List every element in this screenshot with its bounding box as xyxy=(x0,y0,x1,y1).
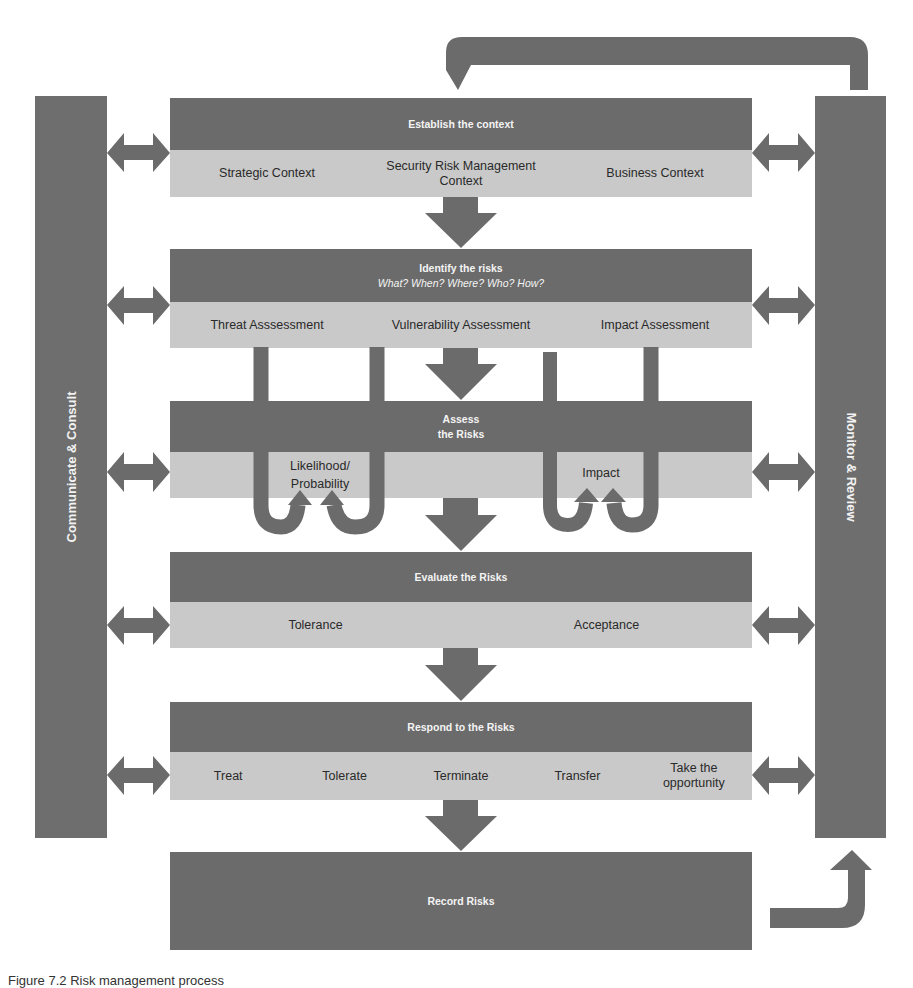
item-vulnerability-assessment: Vulnerability Assessment xyxy=(364,318,558,333)
section-items: Tolerance Acceptance xyxy=(170,602,752,648)
double-arrow-icon xyxy=(752,133,815,172)
communicate-consult-bar: Communicate & Consult xyxy=(35,96,107,838)
double-arrow-icon xyxy=(752,606,815,645)
section-title-line1: Assess xyxy=(443,412,480,427)
item-treat: Treat xyxy=(170,769,286,784)
section-title: Evaluate the Risks xyxy=(415,570,508,585)
section-title: Respond to the Risks xyxy=(407,720,514,735)
double-arrow-icon xyxy=(107,133,170,172)
item-srm-line2: Context xyxy=(364,174,558,189)
double-arrow-icon xyxy=(107,452,170,492)
section-header: Respond to the Risks xyxy=(170,702,752,752)
section-identify-risks: Identify the risks What? When? Where? Wh… xyxy=(170,249,752,348)
figure-caption: Figure 7.2 Risk management process xyxy=(8,973,224,988)
item-tolerate: Tolerate xyxy=(286,769,402,784)
item-impact-assessment: Impact Assessment xyxy=(558,318,752,333)
double-arrow-icon xyxy=(752,452,815,492)
item-terminate: Terminate xyxy=(403,769,519,784)
double-arrow-icon xyxy=(107,606,170,645)
item-threat-assessment: Threat Asssessment xyxy=(170,318,364,333)
double-arrow-icon xyxy=(107,286,170,325)
item-take-line2: opportunity xyxy=(636,776,752,791)
item-likelihood-line2: Probability xyxy=(272,475,368,493)
section-items: Threat Asssessment Vulnerability Assessm… xyxy=(170,302,752,348)
curved-up-arrow-icon xyxy=(770,850,872,928)
item-take-opportunity: Take the opportunity xyxy=(636,761,752,791)
item-transfer: Transfer xyxy=(519,769,635,784)
item-acceptance: Acceptance xyxy=(461,618,752,633)
section-title-line2: the Risks xyxy=(438,427,485,442)
feedback-loop-arrow-icon xyxy=(446,37,868,90)
section-title: Record Risks xyxy=(427,894,494,909)
item-impact: Impact xyxy=(560,466,642,481)
section-title: Establish the context xyxy=(408,117,514,132)
section-establish-context: Establish the context Strategic Context … xyxy=(170,98,752,197)
item-take-line1: Take the xyxy=(636,761,752,776)
communicate-consult-label: Communicate & Consult xyxy=(64,392,79,543)
section-items xyxy=(170,452,752,498)
section-items: Strategic Context Security Risk Manageme… xyxy=(170,150,752,197)
section-record-risks: Record Risks xyxy=(170,852,752,950)
monitor-review-label: Monitor & Review xyxy=(843,412,858,521)
section-header: Evaluate the Risks xyxy=(170,552,752,602)
section-assess-risks: Assess the Risks xyxy=(170,401,752,498)
item-likelihood-line1: Likelihood/ xyxy=(272,457,368,475)
down-arrow-icon xyxy=(425,800,497,851)
monitor-review-bar: Monitor & Review xyxy=(815,96,886,838)
section-header: Assess the Risks xyxy=(170,401,752,452)
double-arrow-icon xyxy=(752,756,815,795)
section-subtitle: What? When? Where? Who? How? xyxy=(378,276,544,291)
down-arrow-icon xyxy=(425,648,497,701)
item-srm-line1: Security Risk Management xyxy=(364,159,558,174)
double-arrow-icon xyxy=(752,286,815,325)
item-strategic-context: Strategic Context xyxy=(170,166,364,181)
item-tolerance: Tolerance xyxy=(170,618,461,633)
section-items: Treat Tolerate Terminate Transfer Take t… xyxy=(170,752,752,800)
section-header: Identify the risks What? When? Where? Wh… xyxy=(170,249,752,302)
section-header: Establish the context xyxy=(170,98,752,150)
double-arrow-icon xyxy=(107,756,170,795)
down-arrow-icon xyxy=(425,348,497,400)
section-evaluate-risks: Evaluate the Risks Tolerance Acceptance xyxy=(170,552,752,648)
item-business-context: Business Context xyxy=(558,166,752,181)
section-header: Record Risks xyxy=(170,852,752,950)
down-arrow-icon xyxy=(425,197,497,248)
section-respond-risks: Respond to the Risks Treat Tolerate Term… xyxy=(170,702,752,800)
section-title: Identify the risks xyxy=(419,261,502,276)
item-likelihood-probability: Likelihood/ Probability xyxy=(272,457,368,493)
item-srm-context: Security Risk Management Context xyxy=(364,159,558,189)
down-arrow-icon xyxy=(425,498,497,551)
